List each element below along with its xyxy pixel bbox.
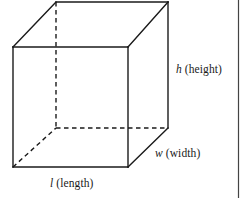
edge-top-left-diagonal bbox=[13, 2, 56, 47]
prism-diagram-svg bbox=[0, 0, 241, 198]
label-height-word: (height) bbox=[185, 63, 222, 75]
label-height: h (height) bbox=[176, 64, 222, 76]
hidden-edges-group bbox=[13, 2, 168, 167]
edge-top-right-diagonal bbox=[128, 2, 168, 47]
solid-edges-group bbox=[13, 2, 168, 167]
prism-figure: h (height) w (width) l (length) bbox=[0, 0, 241, 198]
edge-hidden-bottom-left-diagonal bbox=[13, 128, 56, 167]
label-length-word: (length) bbox=[56, 177, 93, 189]
label-length: l (length) bbox=[50, 178, 94, 190]
label-width-variable: w bbox=[155, 147, 163, 159]
label-width-word: (width) bbox=[166, 147, 201, 159]
label-width: w (width) bbox=[155, 148, 200, 160]
